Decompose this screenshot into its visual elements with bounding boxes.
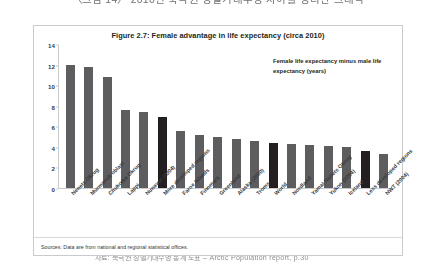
y-axis-tick-label: 8 xyxy=(52,103,55,110)
y-axis-tick-label: 10 xyxy=(48,83,55,90)
x-axis-labels: Nenets OkrugMurmansk oblastChukotka Okru… xyxy=(59,190,395,248)
x-label-slot: Chukotka Okrug xyxy=(98,190,116,248)
x-label-slot: Less developed regions xyxy=(356,190,374,248)
figure-title: Figure 2.7: Female advantage in life exp… xyxy=(34,31,402,40)
x-label-slot: Nunavut (2004) xyxy=(135,190,153,248)
x-label-slot: More developed regions xyxy=(153,190,171,248)
x-label-slot: Nenets Okrug xyxy=(61,190,79,248)
y-axis-tick-mark xyxy=(56,189,58,190)
x-label-slot: World xyxy=(264,190,282,248)
y-axis-tick-label: 14 xyxy=(48,42,55,49)
x-label-slot: Yukon (2004) xyxy=(319,190,337,248)
x-label-slot: Troms xyxy=(245,190,263,248)
korean-page-caption-text: 〈그림 14〉 2010년 북극권 성별기대수명 차이를 정리한 그래픽 xyxy=(0,0,436,4)
bar-slot xyxy=(227,45,245,188)
x-label-slot: Lappi xyxy=(116,190,134,248)
x-label-slot: Nordland xyxy=(282,190,300,248)
x-label-slot: NWT (2004) xyxy=(374,190,392,248)
x-label-slot: Greenland xyxy=(209,190,227,248)
bar[interactable] xyxy=(66,65,75,188)
x-label-slot: Yamal-Nenets Okrug xyxy=(301,190,319,248)
x-label-slot: Alaska (2000) xyxy=(227,190,245,248)
x-label-slot: Murmansk oblast xyxy=(79,190,97,248)
y-axis-tick-label: 12 xyxy=(48,62,55,69)
bottom-cutoff-line: 자료: 북극권 성별기대수명 통계 도표 – Arctic Population… xyxy=(0,256,436,270)
y-axis-tick-mark xyxy=(56,45,58,46)
x-label-slot: Finnmark xyxy=(190,190,208,248)
x-label-slot: Faroe Islands xyxy=(172,190,190,248)
x-label-slot: Iceland xyxy=(338,190,356,248)
chart-annotation: Female life expectancy minus male life e… xyxy=(273,57,391,76)
source-note: Sources: Data are from national and regi… xyxy=(41,244,188,250)
bar-slot xyxy=(61,45,79,188)
y-axis-tick-label: 6 xyxy=(52,124,55,131)
bottom-cutoff-text: 자료: 북극권 성별기대수명 통계 도표 – Arctic Population… xyxy=(95,256,309,262)
y-axis-tick-mark xyxy=(56,86,58,87)
y-axis-tick-label: 0 xyxy=(52,186,55,193)
y-axis-tick-mark xyxy=(56,65,58,66)
y-axis-tick-mark xyxy=(56,106,58,107)
bar[interactable] xyxy=(287,144,296,188)
y-axis-tick-label: 4 xyxy=(52,144,55,151)
y-axis-tick-mark xyxy=(56,168,58,169)
y-axis-tick-mark xyxy=(56,147,58,148)
korean-page-caption: 〈그림 14〉 2010년 북극권 성별기대수명 차이를 정리한 그래픽 xyxy=(0,0,436,14)
source-divider xyxy=(34,237,402,238)
y-axis-tick-label: 2 xyxy=(52,165,55,172)
figure-container: Figure 2.7: Female advantage in life exp… xyxy=(33,25,403,256)
bar[interactable] xyxy=(139,112,148,188)
y-axis-tick-mark xyxy=(56,127,58,128)
bar-slot xyxy=(209,45,227,188)
bar[interactable] xyxy=(269,143,278,188)
